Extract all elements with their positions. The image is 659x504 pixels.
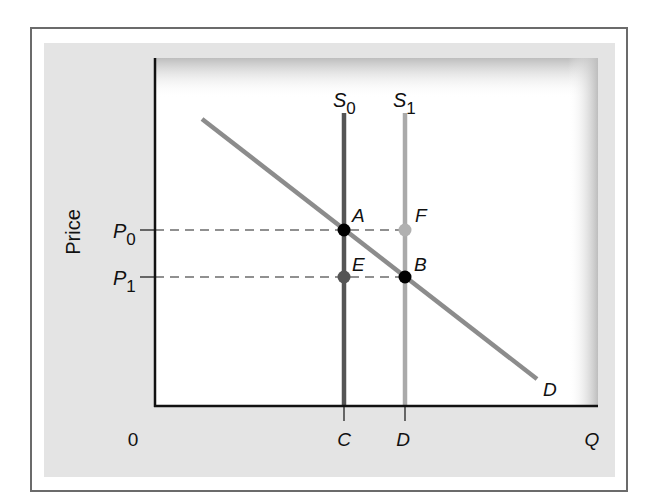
point-e xyxy=(338,271,351,284)
plot-top-shade xyxy=(155,58,598,98)
point-e-label: E xyxy=(352,254,365,275)
point-a xyxy=(338,224,351,237)
p1-label: P1 xyxy=(113,267,136,296)
point-a-label: A xyxy=(351,205,365,226)
x-tick-c-label: C xyxy=(337,429,351,450)
point-f xyxy=(399,224,412,237)
x-tick-d-label: D xyxy=(396,429,410,450)
plot-area xyxy=(155,58,598,406)
point-b-label: B xyxy=(414,254,427,275)
x-axis-label: Q xyxy=(585,429,600,450)
point-f-label: F xyxy=(415,205,428,226)
point-b xyxy=(399,271,412,284)
origin-label: 0 xyxy=(128,429,139,450)
y-axis-label: Price xyxy=(62,209,84,255)
plot-right-shade xyxy=(568,58,598,406)
supply-demand-chart: Price P0 P1 S0 S1 A F E B D 0 C D Q xyxy=(0,0,659,504)
p0-label: P0 xyxy=(113,220,136,249)
demand-label: D xyxy=(543,379,557,400)
